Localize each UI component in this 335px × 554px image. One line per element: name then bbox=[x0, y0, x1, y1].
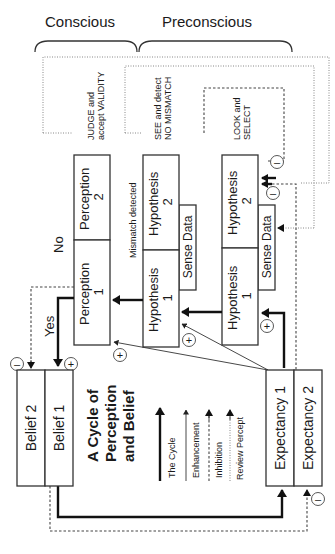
plus-marker-perception: + bbox=[114, 349, 127, 362]
look-stage-label: LOOK and SELECT bbox=[232, 97, 252, 140]
svg-text:Enhancement: Enhancement bbox=[191, 422, 201, 478]
see-stage-label: SEE and detect NO MISMATCH bbox=[153, 77, 173, 140]
svg-text:+: + bbox=[117, 349, 123, 361]
minus-marker-1: – bbox=[271, 156, 284, 169]
conscious-brace bbox=[35, 41, 137, 52]
legend-item-enhancement: Enhancement bbox=[186, 410, 201, 481]
perception-1-box: Perception 1 bbox=[74, 240, 110, 345]
mismatch-label: Mismatch detected bbox=[128, 182, 138, 258]
svg-text:A Cycle of: A Cycle of bbox=[84, 388, 101, 462]
svg-text:+: + bbox=[68, 358, 74, 370]
minus-marker-2: – bbox=[267, 187, 280, 200]
legend-item-cycle: The Cycle bbox=[160, 408, 177, 481]
cycle-arrow-yes-to-belief1 bbox=[58, 298, 74, 366]
legend-item-inhibition: Inhibition bbox=[209, 410, 224, 481]
svg-text:The Cycle: The Cycle bbox=[167, 437, 177, 478]
conscious-stage-label: JUDGE and accept VALIDITY bbox=[86, 72, 106, 140]
svg-text:Belief 2: Belief 2 bbox=[23, 404, 39, 451]
svg-text:Sense Data: Sense Data bbox=[260, 215, 274, 278]
plus-marker-mid-hypothesis: + bbox=[183, 334, 196, 347]
plus-marker-belief1: + bbox=[65, 358, 78, 371]
svg-text:Review Percept: Review Percept bbox=[235, 416, 245, 480]
mid-sense-data-box: Sense Data bbox=[179, 205, 196, 290]
expectancy-1-box: Expectancy 1 bbox=[266, 370, 294, 486]
svg-text:LOOK and: LOOK and bbox=[232, 97, 242, 140]
svg-text:–: – bbox=[270, 187, 277, 199]
svg-text:Belief 1: Belief 1 bbox=[51, 404, 67, 451]
belief-1-box: Belief 1 bbox=[45, 370, 73, 486]
svg-text:and Belief: and Belief bbox=[120, 389, 137, 462]
svg-text:SEE and detect: SEE and detect bbox=[153, 77, 163, 140]
right-hypothesis-2-box: Hypothesis 2 bbox=[222, 155, 258, 248]
legend: The Cycle Enhancement Inhibition Review … bbox=[160, 408, 245, 481]
svg-text:–: – bbox=[315, 493, 322, 505]
svg-text:–: – bbox=[14, 358, 21, 370]
svg-text:Expectancy 2: Expectancy 2 bbox=[300, 386, 316, 470]
svg-text:Expectancy 1: Expectancy 1 bbox=[272, 386, 288, 470]
conscious-label: Conscious bbox=[45, 13, 115, 30]
plus-marker-right-sense: + bbox=[261, 320, 274, 333]
perception-belief-cycle-diagram: Conscious Preconscious JUDGE and accept … bbox=[0, 0, 335, 554]
svg-text:JUDGE and: JUDGE and bbox=[86, 92, 96, 140]
minus-marker-expectancy2: – bbox=[312, 493, 325, 506]
belief-2-box: Belief 2 bbox=[17, 370, 45, 486]
preconscious-brace bbox=[139, 41, 292, 52]
svg-text:NO MISMATCH: NO MISMATCH bbox=[163, 77, 173, 140]
yes-label: Yes bbox=[42, 315, 57, 337]
mid-hypothesis-1-box: Hypothesis 1 bbox=[143, 250, 179, 347]
svg-text:+: + bbox=[186, 334, 192, 346]
no-label: No bbox=[51, 236, 66, 253]
minus-marker-belief2: – bbox=[11, 358, 24, 371]
right-sense-data-box: Sense Data bbox=[258, 205, 275, 290]
svg-text:SELECT: SELECT bbox=[242, 104, 252, 140]
svg-text:accept VALIDITY: accept VALIDITY bbox=[96, 72, 106, 140]
mid-hypothesis-2-box: Hypothesis 2 bbox=[143, 155, 179, 250]
cycle-arrow-belief-to-expectancy bbox=[58, 486, 282, 517]
legend-item-review-percept: Review Percept bbox=[230, 410, 245, 481]
svg-text:+: + bbox=[264, 320, 270, 332]
inhibition-path-belief-to-expectancy2 bbox=[50, 486, 307, 531]
perception-2-box: Perception 2 bbox=[74, 155, 110, 240]
preconscious-label: Preconscious bbox=[162, 13, 252, 30]
diagram-title: A Cycle of Perception and Belief bbox=[84, 384, 137, 462]
svg-text:Inhibition: Inhibition bbox=[214, 442, 224, 478]
expectancy-2-box: Expectancy 2 bbox=[294, 370, 322, 486]
svg-text:–: – bbox=[274, 156, 281, 168]
right-hypothesis-1-box: Hypothesis 1 bbox=[222, 248, 258, 345]
svg-text:Perception: Perception bbox=[102, 384, 119, 462]
svg-text:Sense Data: Sense Data bbox=[181, 215, 195, 278]
